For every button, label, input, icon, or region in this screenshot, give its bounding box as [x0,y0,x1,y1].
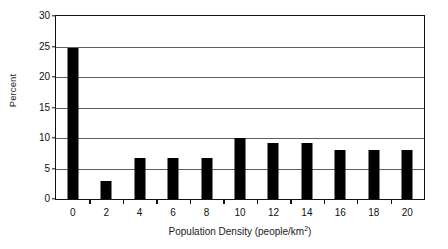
bar-slot [56,16,89,199]
bar [201,158,212,199]
bar-slot [190,16,223,199]
bar [402,150,413,199]
bar-slot [290,16,323,199]
bar-slot [89,16,122,199]
x-tick-mark [391,199,392,204]
y-tick-label: 20 [39,72,50,82]
y-tick-label: 10 [39,133,50,143]
bar-chart: Percent 051015202530 02468101214161820 P… [0,0,448,249]
bar-slot [223,16,256,199]
x-tick-mark [156,199,157,204]
bar-slot [123,16,156,199]
x-tick-label: 2 [103,207,109,218]
x-tick-mark [257,199,258,204]
bar-slot [257,16,290,199]
x-tick-mark [123,199,124,204]
x-tick-label: 16 [335,207,346,218]
y-tick-label: 15 [39,103,50,113]
y-tick-label: 25 [39,42,50,52]
bar [268,143,279,199]
x-tick-mark [290,199,291,204]
x-tick-label: 14 [301,207,312,218]
y-tick-label: 5 [44,164,50,174]
x-axis-title: Population Density (people/km2) [55,226,425,237]
x-tick-label: 4 [137,207,143,218]
bar [101,181,112,199]
y-tick-label: 0 [44,194,50,204]
x-tick-label: 10 [234,207,245,218]
bar [168,158,179,199]
x-tick-mark [223,199,224,204]
x-tick-label: 8 [204,207,210,218]
bar-slot [324,16,357,199]
bar [134,158,145,199]
bar [335,150,346,199]
bar [368,150,379,199]
bar [301,143,312,199]
x-axis-title-base: Population Density (people/km [169,226,305,237]
x-tick-mark [324,199,325,204]
bar [67,48,78,199]
x-axis-title-tail: ) [308,226,311,237]
plot-area: 051015202530 02468101214161820 [55,15,425,200]
x-tick-mark [89,199,90,204]
x-tick-label: 12 [268,207,279,218]
x-tick-label: 20 [402,207,413,218]
x-tick-label: 6 [170,207,176,218]
x-tick-mark [357,199,358,204]
y-tick-label: 30 [39,11,50,21]
bar-slot [357,16,390,199]
y-axis-title: Percent [7,61,18,121]
bar [234,138,245,199]
x-tick-label: 18 [368,207,379,218]
bar-series [56,16,424,199]
x-tick-mark [190,199,191,204]
bar-slot [156,16,189,199]
x-tick-label: 0 [70,207,76,218]
bar-slot [391,16,424,199]
